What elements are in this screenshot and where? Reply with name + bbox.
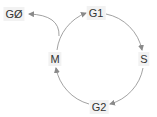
node-s: S [138,52,149,66]
node-g2: G2 [90,100,109,114]
node-g1: G1 [87,6,106,20]
edge-g1-s [106,14,142,50]
node-g0: GØ [3,7,24,21]
edge-m-g0 [29,14,59,36]
edge-g2-m [56,68,89,104]
edge-s-g2 [110,68,143,104]
node-m: M [48,52,61,66]
edge-m-g1 [57,13,86,50]
